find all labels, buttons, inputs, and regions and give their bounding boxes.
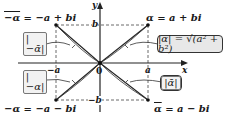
tick-neg-a: −a (47, 66, 60, 75)
point-label-alpha: α = a + bi (146, 13, 202, 23)
callout-leaders (46, 42, 162, 82)
callout-modulus-neg-alpha: |−α| (24, 74, 46, 90)
origin-label: 0 (96, 67, 102, 76)
y-axis-label: y (92, 1, 97, 10)
tick-b: b (92, 20, 98, 29)
callout-modulus-neg-alpha-bar: |−ᾱ| (24, 36, 46, 52)
point-label-neg-alpha-bar: −α = −a + bi (4, 13, 76, 23)
x-axis-label: x (182, 66, 187, 75)
callout-modulus-alpha-bar: |ᾱ| (160, 75, 182, 91)
callout-modulus-alpha: |α| = √(a² + b²) (157, 35, 223, 53)
tick-a: a (145, 66, 151, 75)
y-axis-arrow-icon (97, 2, 103, 9)
point-label-alpha-bar: α = a − bi (154, 104, 210, 114)
point-label-neg-alpha: −α = −a − bi (4, 104, 76, 114)
tick-neg-b: −b (88, 96, 102, 105)
